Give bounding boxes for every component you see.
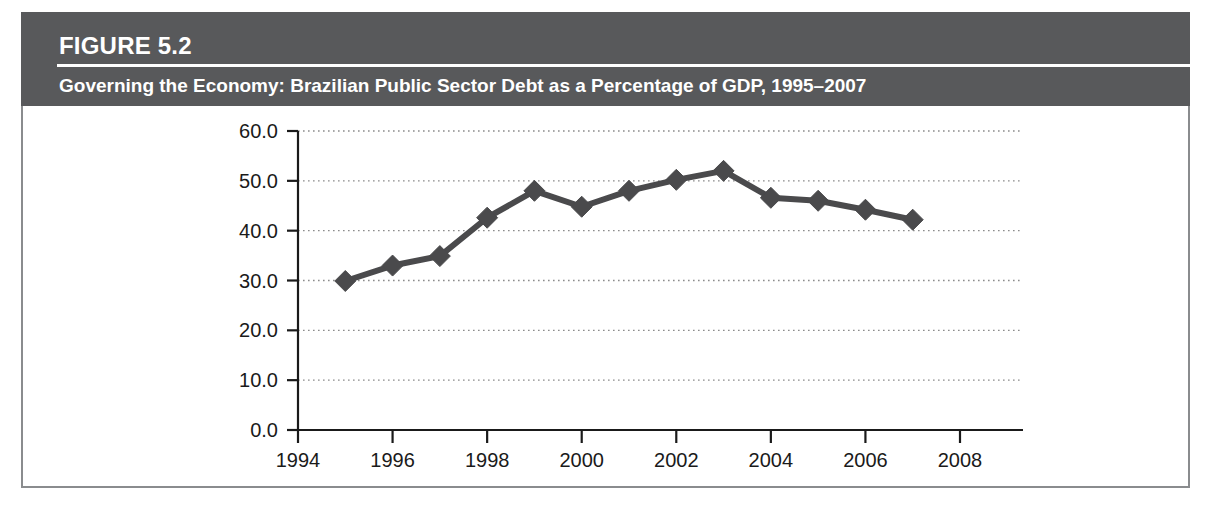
y-tick-label-30.0: 30.0 xyxy=(239,270,278,292)
data-point-marker-1995 xyxy=(335,270,356,291)
data-point-marker-2002 xyxy=(666,169,687,190)
x-tick-label-1994: 1994 xyxy=(276,449,321,471)
data-point-marker-1996 xyxy=(382,255,403,276)
data-point-marker-2006 xyxy=(855,199,876,220)
data-point-marker-2000 xyxy=(571,196,592,217)
data-point-marker-2005 xyxy=(808,190,829,211)
x-tick-label-2008: 2008 xyxy=(938,449,983,471)
data-point-marker-2007 xyxy=(902,209,923,230)
y-tick-label-40.0: 40.0 xyxy=(239,220,278,242)
y-tick-label-10.0: 10.0 xyxy=(239,369,278,391)
chart-frame: 0.010.020.030.040.050.060.0 199419961998… xyxy=(21,106,1190,488)
figure-header-band: FIGURE 5.2 Governing the Economy: Brazil… xyxy=(21,12,1190,106)
y-tick-label-60.0: 60.0 xyxy=(239,120,278,142)
y-tick-label-0.0: 0.0 xyxy=(250,419,278,441)
data-point-marker-2001 xyxy=(619,180,640,201)
figure-title: Governing the Economy: Brazilian Public … xyxy=(59,75,866,97)
figure-number-label: FIGURE 5.2 xyxy=(59,32,192,60)
x-tick-label-1998: 1998 xyxy=(465,449,510,471)
x-tick-label-2004: 2004 xyxy=(749,449,794,471)
x-tick-label-1996: 1996 xyxy=(370,449,415,471)
grid-lines xyxy=(298,131,1023,380)
line-chart-plot: 0.010.020.030.040.050.060.0 199419961998… xyxy=(23,106,1188,484)
data-series-debt-percent-gdp xyxy=(335,160,923,291)
figure-container: FIGURE 5.2 Governing the Economy: Brazil… xyxy=(0,0,1211,507)
y-tick-label-20.0: 20.0 xyxy=(239,319,278,341)
x-tick-label-2006: 2006 xyxy=(843,449,888,471)
header-divider-rule xyxy=(57,64,1190,67)
y-axis: 0.010.020.030.040.050.060.0 xyxy=(239,120,298,441)
x-tick-label-2002: 2002 xyxy=(654,449,699,471)
y-tick-label-50.0: 50.0 xyxy=(239,170,278,192)
x-tick-label-2000: 2000 xyxy=(559,449,604,471)
x-axis: 19941996199820002002200420062008 xyxy=(276,430,1023,471)
